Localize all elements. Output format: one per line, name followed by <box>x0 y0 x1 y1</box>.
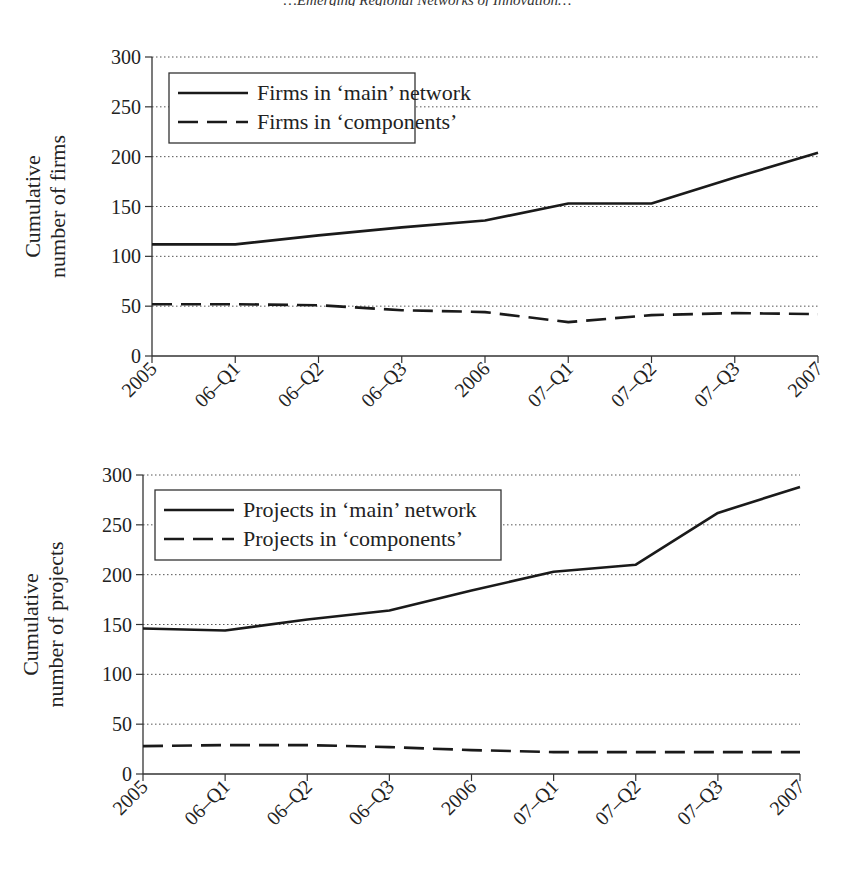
y-tick-label: 150 <box>102 614 132 636</box>
series-line-main <box>152 153 818 245</box>
chart-projects: 050100150200250300200506–Q106–Q206–Q3200… <box>18 464 809 829</box>
x-tick-label: 06–Q1 <box>180 775 234 829</box>
x-tick-label: 06–Q2 <box>262 775 316 829</box>
x-tick-label: 2005 <box>108 775 152 819</box>
y-tick-label: 50 <box>121 295 141 317</box>
y-tick-label: 150 <box>111 196 141 218</box>
y-axis-title-line2: number of firms <box>45 135 70 278</box>
y-tick-label: 100 <box>111 245 141 267</box>
legend-label: Firms in ‘main’ network <box>257 80 471 105</box>
x-tick-label: 07–Q1 <box>523 357 577 411</box>
x-tick-label: 06–Q3 <box>344 775 398 829</box>
legend-label: Firms in ‘components’ <box>257 109 457 134</box>
y-tick-label: 300 <box>102 464 132 486</box>
y-tick-label: 250 <box>102 514 132 536</box>
x-tick-label: 2006 <box>450 357 494 401</box>
x-tick-label: 2007 <box>765 775 809 819</box>
y-axis-title-line1: Cumulative <box>20 155 45 258</box>
legend: Projects in ‘main’ networkProjects in ‘c… <box>155 490 501 560</box>
y-tick-label: 200 <box>102 564 132 586</box>
x-tick-label: 07–Q2 <box>606 357 660 411</box>
x-tick-label: 07–Q3 <box>673 775 727 829</box>
y-tick-label: 50 <box>112 713 132 735</box>
legend-label: Projects in ‘main’ network <box>243 497 477 522</box>
y-tick-label: 200 <box>111 146 141 168</box>
y-tick-label: 300 <box>111 46 141 68</box>
x-tick-label: 2005 <box>117 357 161 401</box>
y-tick-label: 100 <box>102 663 132 685</box>
series-line-components <box>143 745 800 752</box>
x-tick-label: 2006 <box>436 775 480 819</box>
x-tick-label: 06–Q3 <box>357 357 411 411</box>
y-tick-label: 250 <box>111 96 141 118</box>
legend: Firms in ‘main’ networkFirms in ‘compone… <box>169 73 471 143</box>
x-tick-label: 07–Q3 <box>690 357 744 411</box>
x-tick-label: 07–Q1 <box>508 775 562 829</box>
x-tick-label: 07–Q2 <box>591 775 645 829</box>
legend-label: Projects in ‘components’ <box>243 526 463 551</box>
charts-canvas: 050100150200250300200506–Q106–Q206–Q3200… <box>0 0 855 877</box>
series-line-components <box>152 304 818 322</box>
y-axis-title-line1: Cumulative <box>18 573 43 676</box>
y-axis-title-line2: number of projects <box>43 541 68 707</box>
chart-firms: 050100150200250300200506–Q106–Q206–Q3200… <box>20 46 827 411</box>
x-tick-label: 06–Q1 <box>190 357 244 411</box>
x-tick-label: 2007 <box>783 357 827 401</box>
x-tick-label: 06–Q2 <box>273 357 327 411</box>
